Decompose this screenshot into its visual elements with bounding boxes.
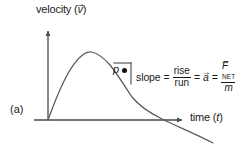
- y-axis-label-text: velocity (: [36, 3, 77, 15]
- point-p-marker: [122, 68, 127, 73]
- velocity-time-figure: velocity (v→) time (t) p slope = rise ru…: [0, 0, 235, 148]
- equals-sign-3: =: [211, 72, 218, 83]
- y-axis-label: velocity (v→): [36, 4, 86, 15]
- slope-equation: slope = rise run = a→ = F→NET m: [136, 61, 235, 94]
- x-axis-label-text: time (: [190, 111, 216, 123]
- velocity-symbol-letter: v: [77, 3, 82, 15]
- x-axis-label: time (t): [190, 112, 223, 123]
- net-force-numerator: F→NET: [221, 61, 235, 82]
- acceleration-symbol-letter: a: [203, 71, 209, 83]
- velocity-vector-symbol: v→: [77, 4, 82, 15]
- slope-word: slope: [136, 72, 161, 83]
- run-denominator: run: [174, 78, 190, 89]
- rise-over-run-fraction: rise run: [173, 66, 191, 88]
- y-axis-label-close: ): [83, 3, 86, 15]
- net-subscript: NET: [222, 74, 235, 81]
- point-p-label: p: [113, 64, 119, 75]
- x-axis-label-close: ): [219, 111, 222, 123]
- panel-label: (a): [10, 104, 23, 115]
- acceleration-vector-symbol: a→: [203, 72, 209, 83]
- rise-numerator: rise: [173, 66, 191, 77]
- force-vector-symbol: F→: [222, 61, 228, 71]
- force-over-mass-fraction: F→NET m: [221, 61, 235, 94]
- force-symbol-letter: F: [222, 60, 228, 71]
- equals-sign-1: =: [163, 72, 170, 83]
- mass-denominator: m: [223, 83, 233, 94]
- equals-sign-2: =: [193, 72, 200, 83]
